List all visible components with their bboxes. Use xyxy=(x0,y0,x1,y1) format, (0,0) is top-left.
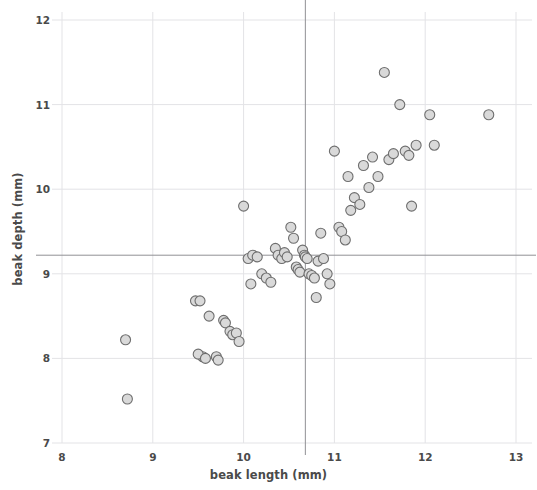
data-point xyxy=(343,172,353,182)
data-point xyxy=(121,335,131,345)
data-point xyxy=(204,311,214,321)
plot-canvas xyxy=(0,0,537,490)
data-point xyxy=(368,152,378,162)
data-point xyxy=(282,252,292,262)
x-tick-label: 9 xyxy=(149,451,156,463)
data-point xyxy=(364,183,374,193)
y-tick-label: 7 xyxy=(24,437,50,449)
x-axis-title: beak length (mm) xyxy=(0,468,537,482)
x-tick-label: 8 xyxy=(58,451,65,463)
data-point xyxy=(289,233,299,243)
data-point xyxy=(325,279,335,289)
data-point xyxy=(252,252,262,262)
y-axis-title: beak depth (mm) xyxy=(11,129,25,329)
data-point xyxy=(484,110,494,120)
data-point xyxy=(429,140,439,150)
data-point xyxy=(302,254,312,264)
data-point xyxy=(234,336,244,346)
data-point xyxy=(195,296,205,306)
data-point xyxy=(346,205,356,215)
data-point xyxy=(311,292,321,302)
data-points-group xyxy=(121,67,494,404)
x-tick-label: 13 xyxy=(509,451,524,463)
scatter-plot-figure: 8910111213 789101112 beak length (mm) be… xyxy=(0,0,537,490)
x-tick-label: 11 xyxy=(327,451,342,463)
data-point xyxy=(388,149,398,159)
data-point xyxy=(407,201,417,211)
data-point xyxy=(395,100,405,110)
data-point xyxy=(239,201,249,211)
data-point xyxy=(246,279,256,289)
data-point xyxy=(309,273,319,283)
data-point xyxy=(316,228,326,238)
y-tick-label: 9 xyxy=(24,268,50,280)
data-point xyxy=(200,353,210,363)
data-point xyxy=(425,110,435,120)
data-point xyxy=(295,267,305,277)
data-point xyxy=(122,394,132,404)
y-tick-label: 12 xyxy=(24,14,50,26)
data-point xyxy=(379,67,389,77)
data-point xyxy=(373,172,383,182)
x-tick-label: 10 xyxy=(236,451,251,463)
data-point xyxy=(340,235,350,245)
y-tick-label: 8 xyxy=(24,352,50,364)
data-point xyxy=(266,277,276,287)
data-point xyxy=(213,355,223,365)
x-tick-label: 12 xyxy=(418,451,433,463)
data-point xyxy=(329,146,339,156)
y-tick-label: 10 xyxy=(24,183,50,195)
y-tick-label: 11 xyxy=(24,99,50,111)
data-point xyxy=(319,254,329,264)
data-point xyxy=(286,222,296,232)
data-point xyxy=(358,161,368,171)
data-point xyxy=(404,150,414,160)
data-point xyxy=(411,140,421,150)
data-point xyxy=(322,269,332,279)
data-point xyxy=(355,199,365,209)
